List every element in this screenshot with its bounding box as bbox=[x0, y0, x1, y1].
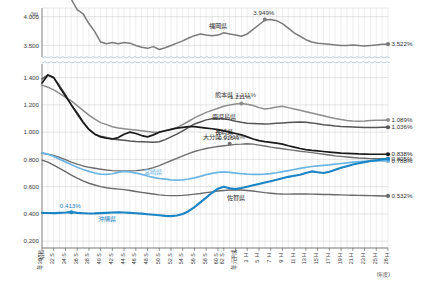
series-name-inline-value: 1.211% bbox=[235, 91, 256, 98]
x-tick-label: 15 bbox=[313, 258, 319, 264]
series-name-label: 福岡県 bbox=[209, 22, 227, 30]
upper-panel-bg bbox=[42, 8, 388, 57]
x-tick-label: 38 bbox=[84, 258, 90, 264]
y-tick-label: 1.400 bbox=[24, 74, 40, 81]
series-end-marker bbox=[386, 157, 390, 161]
x-axis: 昭和30年S32S34S36S38S40S42S44S46S48S50S52S5… bbox=[37, 248, 390, 270]
x-tick-label: 46 bbox=[131, 258, 137, 264]
x-tick-label: 32 bbox=[49, 258, 55, 264]
series-name-inline-value: 0.915% bbox=[224, 133, 245, 140]
x-tick-label: 7 bbox=[266, 260, 272, 263]
x-tick-label: H bbox=[325, 253, 331, 257]
series-name-label: 佐賀県 bbox=[227, 194, 245, 202]
x-tick-label: S bbox=[73, 253, 79, 257]
series-name-label: 宮崎県 bbox=[144, 168, 162, 176]
series-annotation-label: 0.413% bbox=[60, 202, 81, 209]
x-tick-label: S bbox=[219, 253, 225, 257]
x-tick-label: H bbox=[290, 253, 296, 257]
x-tick-label: H bbox=[384, 253, 390, 257]
x-tick-label: 13 bbox=[301, 258, 307, 264]
x-tick-label: S bbox=[190, 253, 196, 257]
x-tick-label: S bbox=[202, 253, 208, 257]
series-end-value-label: 0.788% bbox=[392, 157, 413, 164]
series-name-label: 沖縄県 bbox=[98, 215, 116, 223]
x-tick-label: H bbox=[243, 253, 249, 257]
series-name-label: 大分県 bbox=[203, 133, 221, 141]
y-tick-label: 1.000 bbox=[24, 128, 40, 135]
series-end-value-label: 0.532% bbox=[392, 192, 413, 199]
x-tick-label: 34 bbox=[61, 258, 67, 264]
x-tick-label: 30 bbox=[38, 258, 44, 264]
x-tick-label: H bbox=[278, 253, 284, 257]
series-name-label: 鹿児島県 bbox=[212, 113, 236, 121]
series-annotation-marker bbox=[263, 18, 267, 22]
x-tick-label: 42 bbox=[108, 258, 114, 264]
x-tick-label: S bbox=[155, 253, 161, 257]
x-tick-label: S bbox=[49, 253, 55, 257]
series-end-value-label: 1.089% bbox=[392, 116, 413, 123]
x-tick-label: 40 bbox=[96, 258, 102, 264]
series-annotation-marker bbox=[228, 142, 232, 146]
x-tick-label: 54 bbox=[178, 258, 184, 264]
series-annotation-marker bbox=[69, 210, 73, 214]
x-tick-label: 62 bbox=[219, 258, 225, 264]
x-tick-label: 17 bbox=[325, 258, 331, 264]
x-tick-label: 年 bbox=[230, 264, 238, 270]
x-tick-label: 5 bbox=[254, 260, 260, 263]
series-annotation-label: 3.949% bbox=[253, 9, 274, 16]
y-tick-label: 0.200 bbox=[24, 237, 40, 244]
x-tick-label: 52 bbox=[167, 258, 173, 264]
chart-svg: 4.0003.5001.4001.2001.0000.8000.6000.400… bbox=[0, 0, 424, 289]
x-tick-label: S bbox=[178, 253, 184, 257]
x-tick-label: S bbox=[167, 253, 173, 257]
x-tick-label: H bbox=[313, 253, 319, 257]
x-tick-label: H bbox=[372, 253, 378, 257]
x-axis-unit-label: (年度) bbox=[377, 271, 391, 278]
y-axis-unit-label: (%) bbox=[30, 11, 38, 17]
x-tick-label: 3 bbox=[243, 260, 249, 263]
x-tick-label: 21 bbox=[348, 258, 354, 264]
x-tick-label: S bbox=[120, 253, 126, 257]
y-tick-label: 0.600 bbox=[24, 183, 40, 190]
x-tick-label: H bbox=[348, 253, 354, 257]
x-tick-label: H bbox=[254, 253, 260, 257]
x-tick-label: 19 bbox=[337, 258, 343, 264]
x-tick-label: 36 bbox=[73, 258, 79, 264]
x-tick-label: 48 bbox=[143, 258, 149, 264]
y-tick-label: 1.200 bbox=[24, 101, 40, 108]
series-end-marker bbox=[386, 194, 390, 198]
x-tick-label: S bbox=[143, 253, 149, 257]
series-end-value-label: 3.522% bbox=[392, 40, 413, 47]
series-end-marker bbox=[386, 152, 390, 156]
line-chart: 4.0003.5001.4001.2001.0000.8000.6000.400… bbox=[0, 0, 424, 289]
x-tick-label: H bbox=[301, 253, 307, 257]
x-tick-label: 9 bbox=[278, 260, 284, 263]
series-end-marker bbox=[386, 125, 390, 129]
x-tick-label: 25 bbox=[372, 258, 378, 264]
series-end-value-label: 1.036% bbox=[392, 123, 413, 130]
x-tick-label: S bbox=[131, 253, 137, 257]
y-tick-label: 3.500 bbox=[24, 42, 40, 49]
series-end-marker bbox=[386, 42, 390, 46]
x-tick-label: 平成 bbox=[230, 249, 238, 260]
series-end-marker bbox=[386, 118, 390, 122]
series-name-label: 熊本県 bbox=[215, 91, 233, 99]
x-tick-label: S bbox=[61, 253, 67, 257]
x-tick-label: 56 bbox=[190, 258, 196, 264]
axis-break-squiggle-bottom bbox=[42, 62, 390, 63]
x-tick-label: 58 bbox=[202, 258, 208, 264]
x-tick-label: 26 bbox=[384, 258, 390, 264]
y-tick-label: 0.400 bbox=[24, 210, 40, 217]
x-tick-label: S bbox=[96, 253, 102, 257]
x-tick-label: 44 bbox=[120, 258, 126, 264]
x-tick-label: H bbox=[266, 253, 272, 257]
x-tick-label: 50 bbox=[155, 258, 161, 264]
y-tick-label: 0.800 bbox=[24, 156, 40, 163]
x-tick-label: S bbox=[108, 253, 114, 257]
x-tick-label: H bbox=[337, 253, 343, 257]
x-tick-label: H bbox=[360, 253, 366, 257]
series-annotation-marker bbox=[239, 101, 243, 105]
x-tick-label: S bbox=[84, 253, 90, 257]
x-tick-label: 11 bbox=[290, 258, 296, 264]
x-tick-label: 23 bbox=[360, 258, 366, 264]
